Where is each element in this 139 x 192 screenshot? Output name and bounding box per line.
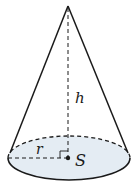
cone-right-side bbox=[68, 6, 128, 153]
cone-left-side bbox=[10, 6, 68, 153]
cone-diagram: h r S bbox=[0, 0, 139, 192]
center-label: S bbox=[75, 151, 86, 170]
height-label: h bbox=[75, 89, 85, 107]
center-point bbox=[66, 156, 70, 160]
